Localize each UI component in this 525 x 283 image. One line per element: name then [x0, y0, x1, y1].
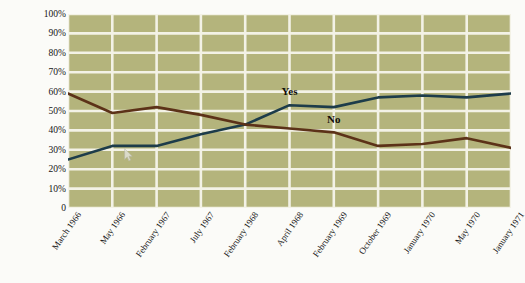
x-axis-tick-label: October 1969	[357, 210, 393, 256]
x-axis-tick-label: January 1970	[402, 210, 438, 255]
y-axis-tick-label: 80%	[49, 48, 66, 58]
series-annotation-yes: Yes	[282, 85, 299, 97]
plot-area: YesNo	[68, 14, 511, 208]
y-axis-tick-label: 20%	[49, 164, 66, 174]
x-axis-tick-labels: March 1966May 1966February 1967July 1967…	[68, 210, 511, 283]
chart-figure: Response (in percent) 010%20%30%40%50%60…	[0, 0, 525, 283]
x-axis-tick-label: February 1967	[133, 210, 171, 259]
chart-canvas: YesNo	[68, 14, 511, 208]
x-axis-tick-label: February 1969	[311, 210, 349, 259]
series-annotation-no: No	[327, 113, 341, 125]
y-axis-tick-label: 100%	[44, 9, 66, 19]
y-axis-tick-label: 0	[61, 203, 66, 213]
y-axis-tick-label: 30%	[49, 145, 66, 155]
x-axis-tick-label: May 1970	[453, 210, 482, 246]
x-axis-tick-label: January 1971	[490, 210, 525, 255]
x-axis-tick-label: March 1966	[50, 210, 83, 252]
y-axis-tick-label: 40%	[49, 125, 66, 135]
chart-title-cropped	[0, 0, 525, 4]
y-axis-tick-labels: 010%20%30%40%50%60%70%80%90%100%	[22, 8, 66, 208]
y-axis-tick-label: 60%	[49, 87, 66, 97]
x-axis-tick-label: February 1968	[222, 210, 260, 259]
x-axis-tick-label: April 1968	[274, 210, 305, 248]
y-axis-tick-label: 90%	[49, 28, 66, 38]
y-axis-tick-label: 50%	[49, 106, 66, 116]
x-axis-tick-label: May 1966	[98, 210, 127, 246]
x-axis-tick-label: July 1967	[188, 210, 216, 245]
y-axis-tick-label: 10%	[49, 184, 66, 194]
y-axis-tick-label: 70%	[49, 67, 66, 77]
